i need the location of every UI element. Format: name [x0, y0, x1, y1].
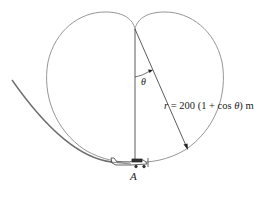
equation-equals: =: [168, 100, 179, 111]
point-a-label: A: [130, 170, 137, 182]
theta-label: θ: [141, 76, 146, 87]
equation-rhs-suffix: ) m: [239, 100, 253, 111]
flight-path: [12, 80, 112, 162]
radius-line: [135, 29, 187, 148]
cardioid-diagram: [0, 0, 272, 198]
theta-arrowhead-icon: [148, 70, 153, 74]
airplane-icon: [110, 158, 148, 168]
equation-rhs-prefix: 200 (1 + cos: [179, 100, 234, 111]
curve-equation-label: r = 200 (1 + cos θ) m: [164, 100, 254, 111]
